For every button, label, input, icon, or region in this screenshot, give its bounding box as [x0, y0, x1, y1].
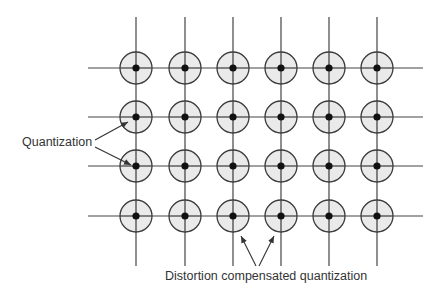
lattice-dot: [277, 212, 284, 219]
lattice-dot: [181, 113, 188, 120]
lattice-dot: [229, 162, 236, 169]
lattice-dot: [277, 64, 284, 71]
lattice-point: [169, 200, 201, 232]
lattice-point: [169, 150, 201, 182]
lattice-point: [217, 150, 249, 182]
lattice-dot: [229, 113, 236, 120]
lattice-points: [120, 52, 393, 232]
lattice-dot: [132, 64, 139, 71]
lattice-point: [169, 52, 201, 84]
lattice-dot: [229, 212, 236, 219]
lattice-dot: [132, 162, 139, 169]
distortion-compensated-quantization-label: Distortion compensated quantization: [165, 269, 367, 283]
lattice-point: [313, 101, 345, 133]
lattice-point: [120, 52, 152, 84]
lattice-point: [217, 200, 249, 232]
lattice-point: [120, 101, 152, 133]
lattice-point: [361, 101, 393, 133]
lattice-dot: [277, 162, 284, 169]
lattice-dot: [373, 113, 380, 120]
lattice-point: [313, 52, 345, 84]
lattice-dot: [325, 212, 332, 219]
lattice-dot: [181, 212, 188, 219]
arrow-icon: [259, 236, 274, 266]
lattice-dot: [373, 212, 380, 219]
lattice-dot: [181, 162, 188, 169]
quantization-label: Quantization: [22, 135, 92, 149]
lattice-dot: [325, 162, 332, 169]
lattice-dot: [132, 113, 139, 120]
lattice-point: [361, 52, 393, 84]
lattice-dot: [181, 64, 188, 71]
lattice-point: [217, 52, 249, 84]
lattice-point: [361, 150, 393, 182]
lattice-point: [265, 52, 297, 84]
lattice-point: [265, 200, 297, 232]
lattice-dot: [325, 64, 332, 71]
lattice-point: [217, 101, 249, 133]
lattice-point: [120, 150, 152, 182]
quantization-lattice-diagram: Quantization Distortion compensated quan…: [0, 0, 442, 287]
lattice-dot: [325, 113, 332, 120]
lattice-point: [361, 200, 393, 232]
arrow-icon: [241, 236, 256, 266]
lattice-dot: [373, 162, 380, 169]
lattice-point: [313, 150, 345, 182]
lattice-dot: [373, 64, 380, 71]
lattice-point: [120, 200, 152, 232]
lattice-point: [265, 101, 297, 133]
lattice-dot: [277, 113, 284, 120]
lattice-dot: [132, 212, 139, 219]
lattice-point: [169, 101, 201, 133]
arrow-icon: [95, 122, 128, 140]
lattice-dot: [229, 64, 236, 71]
lattice-point: [265, 150, 297, 182]
lattice-point: [313, 200, 345, 232]
